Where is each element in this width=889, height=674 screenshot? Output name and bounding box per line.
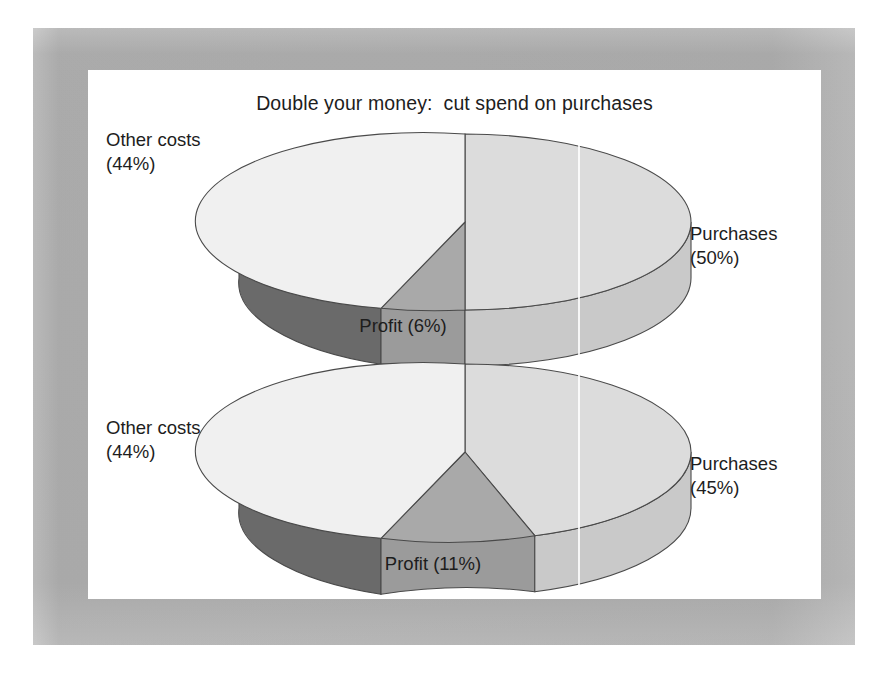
pie-chart-2: Other costs (44%) Purchases (45%) Profit… [88, 348, 821, 598]
slide-canvas: Double your money: cut spend on purchase… [88, 70, 821, 599]
pie-1-label-profit: Profit (6%) [288, 314, 518, 338]
pie-2-label-purchases: Purchases (45%) [690, 452, 840, 499]
pie-1-label-purchases: Purchases (50%) [690, 222, 840, 269]
pie-2-label-profit: Profit (11%) [318, 552, 548, 576]
slide-root: Double your money: cut spend on purchase… [0, 0, 889, 674]
pie-2-label-other-costs: Other costs (44%) [106, 416, 256, 463]
page-title: Double your money: cut spend on purchase… [88, 92, 821, 115]
pie-1-label-other-costs: Other costs (44%) [106, 128, 256, 175]
pie-chart-1: Other costs (44%) Purchases (50%) Profit… [88, 118, 821, 368]
